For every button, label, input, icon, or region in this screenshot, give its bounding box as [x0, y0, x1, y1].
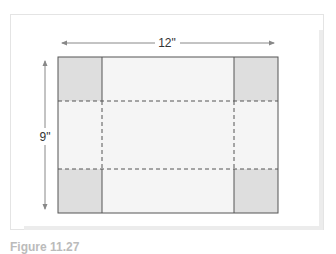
- arrowhead-left-icon: [61, 41, 67, 46]
- height-label: 9": [40, 130, 51, 144]
- arrowhead-down-icon: [43, 204, 48, 210]
- width-label: 12": [158, 36, 176, 50]
- figure-caption: Figure 11.27: [10, 240, 79, 254]
- arrowhead-right-icon: [269, 41, 275, 46]
- corner-bottom-left: [58, 169, 102, 213]
- corner-bottom-right: [234, 169, 278, 213]
- corner-top-right: [234, 57, 278, 101]
- arrowhead-up-icon: [43, 60, 48, 66]
- corner-top-left: [58, 57, 102, 101]
